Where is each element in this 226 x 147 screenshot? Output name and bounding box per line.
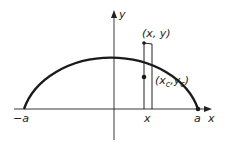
centroid-label: (xc,yc): [155, 74, 189, 89]
left-end-label: −a: [13, 112, 29, 125]
y-axis: [111, 10, 117, 140]
semi-ellipse-diagram: y x −a a x (x, y) (xc,yc): [0, 0, 226, 147]
point-on-curve-label: (x, y): [142, 27, 171, 40]
x-axis: [14, 106, 212, 112]
y-axis-arrow-icon: [111, 10, 117, 18]
right-end-label: a: [194, 112, 201, 125]
right-end-dot: [196, 107, 201, 112]
y-axis-label: y: [118, 8, 126, 21]
x-axis-label: x: [207, 112, 215, 125]
point-on-curve-dot: [142, 41, 146, 45]
centroid-dot: [142, 75, 147, 80]
strip-x-label: x: [143, 112, 151, 125]
